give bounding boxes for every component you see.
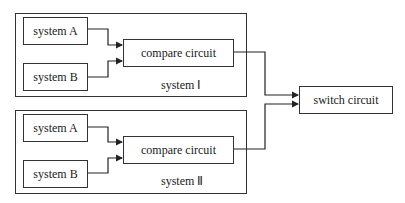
system-2-label: system Ⅱ — [161, 174, 203, 189]
system-2-b-block: system B — [23, 160, 88, 188]
system-1-b-block: system B — [23, 63, 88, 91]
block-diagram: system A system B compare circuit system… — [0, 0, 405, 203]
switch-circuit-block: switch circuit — [299, 86, 393, 114]
system-2-compare-block: compare circuit — [123, 136, 234, 164]
system-1-compare-block: compare circuit — [123, 39, 234, 67]
system-1-label: system Ⅰ — [161, 78, 201, 93]
system-1-a-block: system A — [23, 17, 88, 45]
system-2-a-block: system A — [23, 114, 88, 142]
